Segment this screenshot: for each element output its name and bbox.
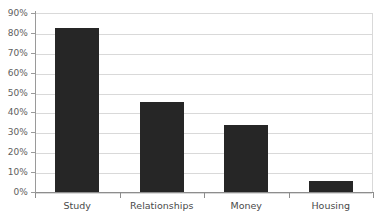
- bar: [55, 28, 99, 193]
- bar: [140, 102, 184, 193]
- y-axis-tick: [31, 53, 36, 54]
- y-axis-tick: [31, 132, 36, 133]
- y-axis-tick-label: 70%: [0, 49, 28, 58]
- y-axis-tick: [31, 152, 36, 153]
- x-axis-category-label: Relationships: [120, 200, 205, 212]
- x-axis-category-label: Money: [204, 200, 289, 212]
- x-axis-tick: [289, 193, 290, 198]
- x-axis-tick: [35, 193, 36, 198]
- y-axis-tick: [31, 13, 36, 14]
- x-axis-tick: [373, 193, 374, 198]
- y-axis-tick-label: 30%: [0, 128, 28, 137]
- y-axis-tick: [31, 73, 36, 74]
- y-axis-tick: [31, 112, 36, 113]
- plot-area: [35, 13, 373, 192]
- y-axis-line: [35, 11, 36, 194]
- y-axis-tick-label: 0%: [0, 188, 28, 197]
- y-axis-tick-label: 40%: [0, 108, 28, 117]
- y-axis-tick-label: 60%: [0, 69, 28, 78]
- y-axis-tick-label: 80%: [0, 29, 28, 38]
- bar: [224, 125, 268, 193]
- y-axis-tick: [31, 93, 36, 94]
- bar-chart: 0%10%20%30%40%50%60%70%80%90% StudyRelat…: [0, 0, 385, 220]
- x-axis-category-label: Study: [35, 200, 120, 212]
- x-axis-tick: [204, 193, 205, 198]
- y-axis-tick-label: 90%: [0, 9, 28, 18]
- x-axis-tick: [120, 193, 121, 198]
- y-axis-tick-label: 50%: [0, 89, 28, 98]
- y-axis-tick-label: 10%: [0, 168, 28, 177]
- y-axis-tick-label: 20%: [0, 148, 28, 157]
- x-axis-category-label: Housing: [289, 200, 374, 212]
- y-axis-tick: [31, 33, 36, 34]
- y-axis-tick: [31, 172, 36, 173]
